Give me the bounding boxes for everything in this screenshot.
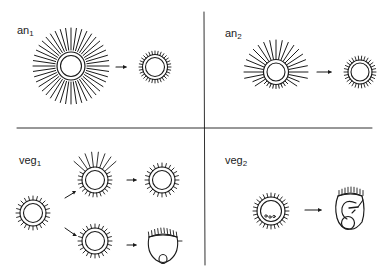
an2-arrow bbox=[317, 70, 332, 74]
label-veg2-sub: 2 bbox=[243, 159, 247, 168]
veg2-arrow bbox=[305, 208, 322, 212]
label-veg1: veg1 bbox=[19, 154, 41, 168]
veg1-bottom-cell bbox=[78, 224, 112, 258]
an1-large-rayed-cell bbox=[33, 28, 109, 104]
veg2-embryo-form bbox=[336, 187, 364, 230]
yolk-sphere bbox=[342, 217, 355, 230]
an2-rayed-cell bbox=[244, 40, 308, 89]
label-an2-base: an bbox=[225, 27, 237, 39]
label-an2: an2 bbox=[225, 27, 242, 41]
veg1-arrow-up bbox=[65, 191, 76, 198]
label-an1: an1 bbox=[17, 24, 34, 38]
an2-small-ticked-cell bbox=[344, 56, 376, 88]
an1-arrow bbox=[116, 65, 127, 69]
dot bbox=[265, 215, 267, 217]
veg1-top-result-cell bbox=[145, 163, 179, 197]
veg1-start-cell bbox=[16, 196, 50, 230]
an1-small-ticked-cell bbox=[139, 51, 171, 83]
vertical-divider bbox=[204, 12, 205, 265]
veg2-dotted-cell bbox=[253, 193, 289, 229]
label-an1-sub: 1 bbox=[29, 29, 33, 38]
label-veg2: veg2 bbox=[225, 154, 247, 168]
veg1-arrow-down bbox=[65, 228, 77, 236]
diagram-canvas bbox=[0, 0, 390, 276]
label-veg1-sub: 1 bbox=[37, 159, 41, 168]
label-veg2-base: veg bbox=[225, 154, 243, 166]
dot bbox=[269, 216, 271, 218]
label-an2-sub: 2 bbox=[237, 32, 241, 41]
veg1-top-rayed-cell bbox=[74, 152, 116, 197]
veg1-top-arrow bbox=[127, 178, 137, 182]
veg1-bottom-arrow bbox=[127, 243, 137, 247]
veg1-cup-form bbox=[148, 228, 182, 263]
label-an1-base: an bbox=[17, 24, 29, 36]
dot bbox=[273, 215, 275, 217]
label-veg1-base: veg bbox=[19, 154, 37, 166]
